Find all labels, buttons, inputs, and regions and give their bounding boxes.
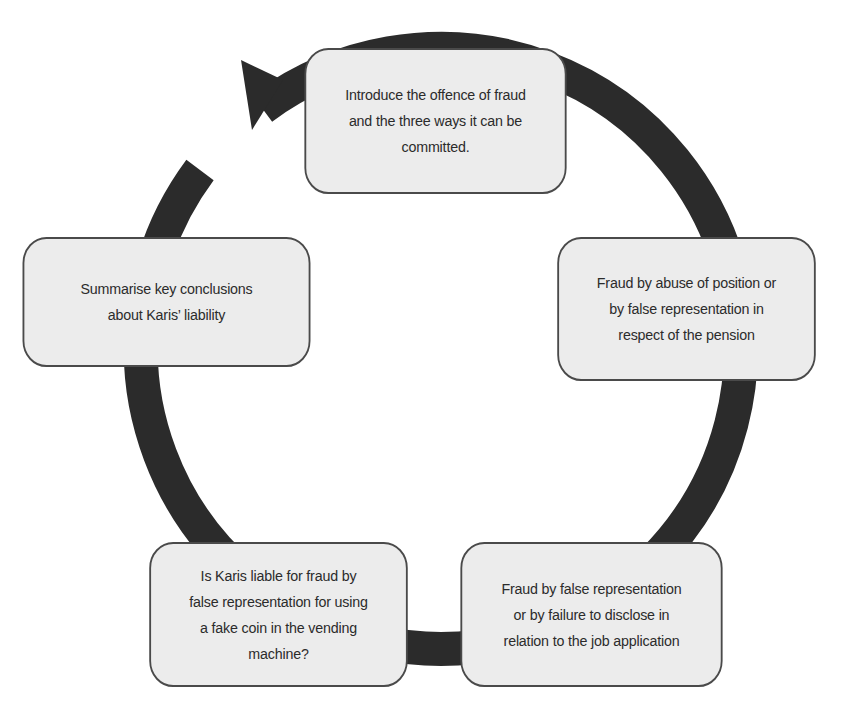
step-text: Fraud by false representation or by fail… [501, 576, 681, 654]
step-box-summarise-conclusions: Summarise key conclusions about Karis’ l… [23, 237, 311, 367]
step-box-fake-coin-vending-machine: Is Karis liable for fraud by false repre… [149, 542, 408, 687]
step-text: Fraud by abuse of position or by false r… [597, 270, 776, 348]
step-text: Introduce the offence of fraud and the t… [345, 82, 526, 160]
step-box-introduce-offence: Introduce the offence of fraud and the t… [304, 48, 566, 194]
step-box-abuse-of-position-pension: Fraud by abuse of position or by false r… [557, 237, 816, 381]
step-text: Summarise key conclusions about Karis’ l… [80, 276, 252, 328]
step-box-job-application: Fraud by false representation or by fail… [460, 542, 722, 687]
step-text: Is Karis liable for fraud by false repre… [189, 563, 367, 667]
